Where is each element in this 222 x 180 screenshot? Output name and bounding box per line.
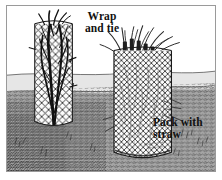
illustration-frame: Wrap and tie Pack with straw — [6, 5, 216, 172]
label-pack-with-straw: Pack with straw — [153, 116, 216, 140]
illustration-root: Wrap and tie Pack with straw — [0, 0, 222, 180]
illustration-scene: Wrap and tie Pack with straw — [7, 6, 215, 171]
label-wrap-and-tie: Wrap and tie — [69, 10, 135, 34]
